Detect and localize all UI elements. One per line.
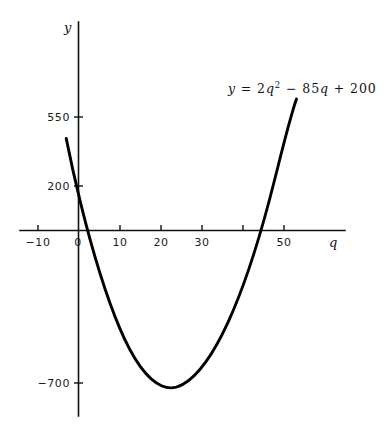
parabola-figure: −10 0 10 20 30 50 550 200 −700 y q y = 2… (0, 0, 391, 424)
equation-variable-linear: q (320, 81, 329, 96)
y-tick-label-200: 200 (22, 181, 70, 192)
x-tick-label-30: 30 (194, 237, 209, 248)
x-tick-label-10: 10 (112, 237, 127, 248)
equation-quadratic-coefficient: 2 (257, 81, 266, 96)
y-axis-label: y (64, 21, 71, 34)
y-tick-label-550: 550 (22, 112, 70, 123)
equation-variable-quadratic: q (266, 81, 275, 96)
equation-annotation: y = 2q2 − 85q + 200 (228, 83, 377, 96)
equation-constant-term: 200 (350, 81, 377, 96)
equation-linear-coefficient: 85 (302, 81, 320, 96)
x-tick-label-0: 0 (74, 237, 82, 248)
x-tick-label-50: 50 (276, 237, 291, 248)
plot-canvas (0, 0, 391, 424)
y-tick-label--700: −700 (14, 378, 70, 389)
equation-plus-sign: + (334, 81, 345, 96)
x-axis-label: q (329, 236, 337, 249)
x-tick-label--10: −10 (25, 237, 50, 248)
equation-minus-sign: − (286, 81, 297, 96)
equation-exponent: 2 (275, 80, 281, 90)
equation-lhs: y (228, 81, 236, 96)
parabola-curve (66, 99, 296, 388)
x-tick-label-20: 20 (153, 237, 168, 248)
equation-equals-sign: = (241, 81, 252, 96)
